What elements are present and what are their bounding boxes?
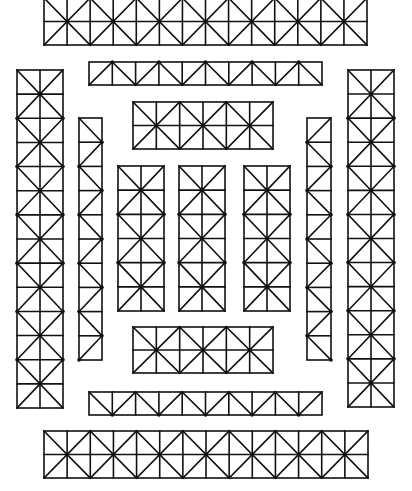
joint-node: [223, 213, 227, 217]
diagonal-member: [229, 62, 252, 85]
panel-top-strip: [44, 0, 367, 45]
diagonal-member: [307, 312, 331, 336]
diagonal-member: [79, 142, 102, 166]
joint-node: [61, 358, 65, 362]
joint-node: [38, 189, 42, 193]
diagonal-member: [252, 392, 275, 415]
joint-node: [297, 413, 301, 417]
diagonal-member: [79, 215, 102, 239]
joint-node: [369, 189, 373, 193]
joint-node: [297, 453, 301, 457]
joint-node: [297, 60, 301, 64]
joint-node: [288, 261, 292, 265]
joint-node: [288, 213, 292, 217]
joint-node: [250, 60, 254, 64]
joint-node: [38, 237, 42, 241]
joint-node: [77, 358, 81, 362]
panel-inner-column-1: [116, 166, 166, 311]
joint-node: [265, 285, 269, 289]
joint-node: [369, 381, 373, 385]
joint-node: [346, 261, 350, 265]
joint-node: [392, 164, 396, 168]
diagonal-member: [79, 118, 102, 142]
joint-node: [343, 453, 347, 457]
joint-node: [204, 413, 208, 417]
joint-node: [177, 261, 181, 265]
joint-node: [158, 20, 162, 24]
joint-node: [65, 20, 69, 24]
joint-node: [38, 141, 42, 145]
joint-node: [346, 357, 350, 361]
joint-node: [177, 213, 181, 217]
joint-node: [157, 60, 161, 64]
joint-node: [204, 60, 208, 64]
joint-node: [38, 92, 42, 96]
joint-node: [111, 413, 115, 417]
diagonal-member: [307, 263, 331, 287]
diagonal-member: [112, 62, 135, 85]
joint-node: [204, 20, 208, 24]
diagonal-member: [79, 312, 102, 336]
joint-node: [392, 309, 396, 313]
diagonal-member: [307, 336, 331, 360]
joint-node: [65, 453, 69, 457]
panel-lower-box: [133, 327, 273, 373]
diagonal-member: [307, 191, 331, 215]
joint-node: [369, 92, 373, 96]
joint-node: [265, 188, 269, 192]
joint-node: [346, 164, 350, 168]
joint-node: [296, 20, 300, 24]
joint-node: [38, 285, 42, 289]
panel-left-tall-column: [15, 70, 65, 408]
joint-node: [369, 285, 373, 289]
panel-bottom-strip: [44, 431, 368, 478]
diagonal-member: [89, 392, 112, 415]
joint-node: [38, 382, 42, 386]
joint-node: [162, 261, 166, 265]
joint-node: [250, 20, 254, 24]
diagonal-member: [307, 118, 331, 142]
joint-node: [139, 285, 143, 289]
joint-node: [61, 213, 65, 217]
diagonal-member: [159, 392, 182, 415]
diagonal-member: [182, 62, 205, 85]
joint-node: [15, 310, 19, 314]
joint-node: [200, 285, 204, 289]
diagonal-member: [206, 392, 229, 415]
diagonal-member: [275, 62, 298, 85]
diagonal-member: [112, 392, 135, 415]
joint-node: [250, 413, 254, 417]
joint-node: [248, 124, 252, 128]
joint-node: [15, 165, 19, 169]
joint-node: [250, 453, 254, 457]
joint-node: [204, 453, 208, 457]
truss-pattern-diagram: [0, 0, 412, 491]
joint-node: [248, 348, 252, 352]
joint-node: [38, 334, 42, 338]
joint-node: [346, 309, 350, 313]
diagonal-member: [79, 239, 102, 263]
diagonal-member: [136, 392, 159, 415]
diagonal-member: [136, 62, 159, 85]
joint-node: [111, 60, 115, 64]
joint-node: [392, 357, 396, 361]
joint-node: [139, 188, 143, 192]
diagonal-member: [79, 166, 102, 190]
joint-node: [346, 213, 350, 217]
diagonal-member: [299, 392, 322, 415]
joint-node: [369, 333, 373, 337]
joint-node: [61, 310, 65, 314]
panel-right-tall-column: [346, 70, 396, 407]
joint-node: [112, 453, 116, 457]
joint-node: [369, 140, 373, 144]
panel-inner-column-3: [242, 166, 292, 311]
joint-node: [342, 20, 346, 24]
diagonal-member: [182, 392, 205, 415]
diagonal-member: [79, 263, 102, 287]
joint-node: [201, 348, 205, 352]
panel-inner-column-2: [177, 166, 227, 311]
joint-node: [116, 261, 120, 265]
joint-node: [392, 261, 396, 265]
diagonal-member: [252, 62, 275, 85]
joint-node: [61, 261, 65, 265]
